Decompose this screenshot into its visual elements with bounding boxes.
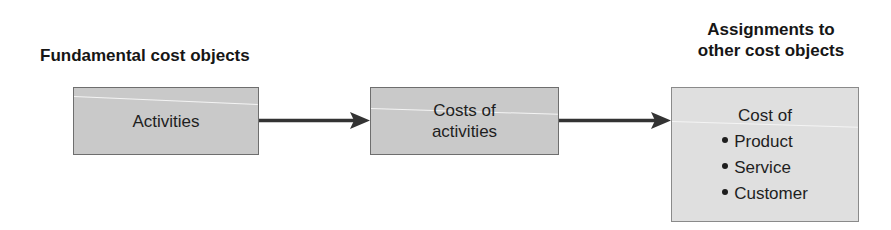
bullet-icon xyxy=(722,137,728,143)
arrow-costs-to-assignments xyxy=(559,112,671,129)
cost-object-list: Product Service Customer xyxy=(722,129,808,207)
box-costs-of-activities-label: Costs of activities xyxy=(432,100,497,142)
bullet-icon xyxy=(722,163,728,169)
arrow-activities-to-costs xyxy=(259,112,370,129)
list-item-service: Service xyxy=(722,155,808,181)
bullet-icon xyxy=(722,189,728,195)
list-item-customer: Customer xyxy=(722,181,808,207)
list-item-product: Product xyxy=(722,129,808,155)
box-activities-label: Activities xyxy=(132,111,199,132)
box-cost-of-title: Cost of xyxy=(738,103,792,129)
